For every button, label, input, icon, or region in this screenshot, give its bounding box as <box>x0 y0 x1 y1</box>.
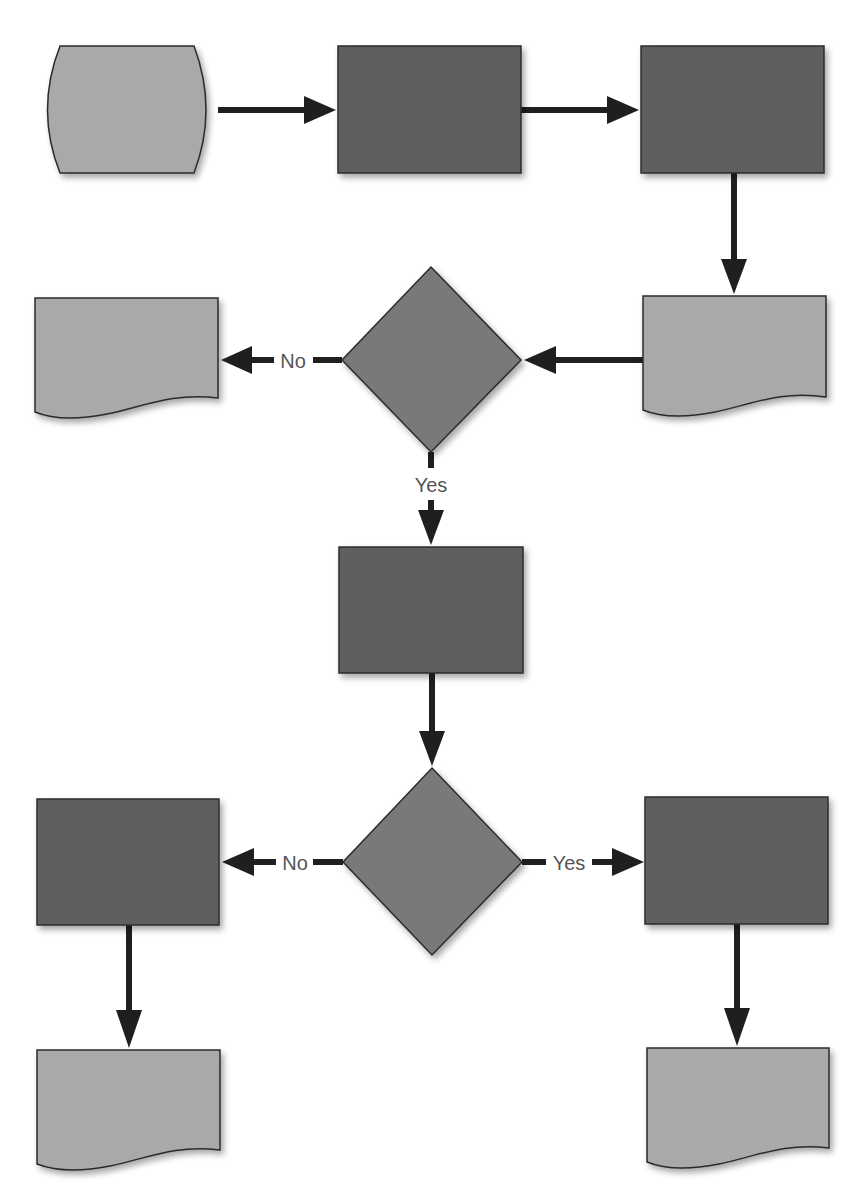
edge-process-2-to-document-1 <box>721 173 747 294</box>
edge-start-to-process-1 <box>218 96 336 124</box>
document-4-shape[interactable] <box>647 1048 829 1168</box>
decision-2-diamond[interactable] <box>343 768 522 955</box>
decision-2-yes-label: Yes <box>553 852 586 874</box>
decision-2-no-label: No <box>282 852 308 874</box>
decision-1-no-label: No <box>280 350 306 372</box>
edge-process-4-to-document-3 <box>116 925 142 1048</box>
edge-process-5-to-document-4 <box>724 924 750 1046</box>
edge-process-1-to-process-2 <box>521 96 639 124</box>
process-3-box[interactable] <box>339 547 523 673</box>
document-1-shape[interactable] <box>643 296 826 416</box>
process-4-box[interactable] <box>37 799 219 925</box>
start-terminator[interactable] <box>48 46 207 173</box>
decision-1-diamond[interactable] <box>342 267 521 452</box>
process-5-box[interactable] <box>645 797 828 924</box>
edge-process-3-to-decision-2 <box>419 673 445 766</box>
process-1-box[interactable] <box>338 46 521 173</box>
decision-1-yes-label: Yes <box>415 474 448 496</box>
edge-document-1-to-decision-1 <box>524 346 643 374</box>
document-2-shape[interactable] <box>35 298 218 418</box>
process-2-box[interactable] <box>641 46 824 173</box>
flowchart-canvas: No Yes No Yes <box>0 0 866 1198</box>
document-3-shape[interactable] <box>37 1050 220 1170</box>
edge-decision-1-yes <box>418 452 444 545</box>
